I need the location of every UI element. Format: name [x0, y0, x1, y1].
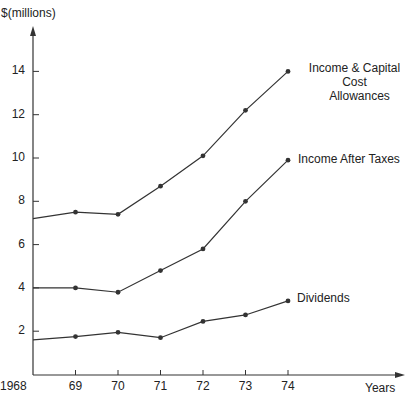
series-line — [33, 301, 288, 340]
data-point — [243, 199, 248, 204]
x-ticks — [76, 370, 289, 375]
y-axis-arrow-icon — [30, 26, 36, 36]
data-point — [73, 334, 78, 339]
data-point — [158, 268, 163, 273]
x-tick-label: 72 — [183, 379, 223, 393]
data-point — [116, 290, 121, 295]
x-tick-label: 73 — [226, 379, 266, 393]
x-tick-label: 74 — [268, 379, 308, 393]
y-tick-label: 4 — [3, 280, 25, 294]
y-ticks — [33, 71, 39, 331]
series-2 — [33, 298, 290, 340]
y-tick-label: 14 — [3, 63, 25, 77]
series-0 — [33, 69, 290, 219]
data-point — [243, 108, 248, 113]
y-tick-label: 10 — [3, 150, 25, 164]
data-point — [286, 298, 291, 303]
data-point — [73, 286, 78, 291]
data-point — [116, 330, 121, 335]
data-point — [201, 247, 206, 252]
series-label-income-after-taxes: Income After Taxes — [298, 152, 400, 166]
x-tick-label: 71 — [141, 379, 181, 393]
x-tick-label: 69 — [56, 379, 96, 393]
series-1 — [33, 158, 290, 295]
y-tick-label: 2 — [3, 323, 25, 337]
y-tick-label: 6 — [3, 237, 25, 251]
x-tick-label: 70 — [98, 379, 138, 393]
series-label-line1: Income & Capital Cost — [296, 61, 413, 89]
y-axis-label: $(millions) — [1, 6, 56, 20]
y-tick-label: 8 — [3, 193, 25, 207]
data-point — [286, 158, 291, 163]
series-label-dividends: Dividends — [297, 291, 350, 305]
data-point — [201, 153, 206, 158]
data-series — [33, 69, 290, 340]
data-point — [243, 313, 248, 318]
data-point — [73, 210, 78, 215]
x-axis-label: Years — [365, 381, 395, 395]
y-tick-label: 12 — [3, 107, 25, 121]
x-axis-arrow-icon — [395, 372, 405, 378]
data-point — [158, 184, 163, 189]
data-point — [158, 335, 163, 340]
data-point — [116, 212, 121, 217]
series-label-income-cca: Income & Capital Cost Allowances — [296, 61, 413, 103]
data-point — [201, 319, 206, 324]
x-tick-label: 1968 — [0, 379, 40, 393]
series-label-line2: Allowances — [296, 89, 413, 103]
data-point — [286, 69, 291, 74]
